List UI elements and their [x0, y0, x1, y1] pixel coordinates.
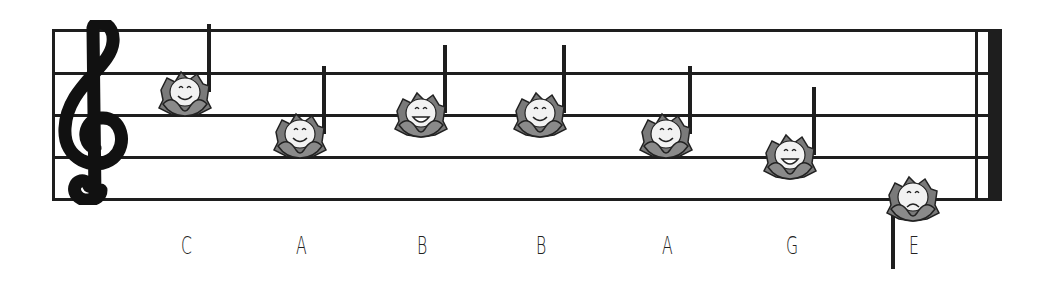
- cabbage-note-head-icon: [270, 111, 330, 161]
- note-label-a: A: [296, 232, 307, 260]
- thick-end-barline: [988, 29, 1002, 201]
- staff-line-1: [52, 29, 996, 32]
- note-label-b: B: [417, 232, 427, 260]
- cabbage-note-head-icon: [391, 90, 451, 140]
- note-label-e: E: [909, 232, 919, 260]
- treble-clef-icon: [55, 20, 135, 205]
- note-label-b: B: [536, 232, 546, 260]
- note-label-a: A: [662, 232, 673, 260]
- cabbage-note-head-icon: [883, 174, 943, 224]
- note-label-g: G: [786, 232, 798, 260]
- cabbage-note-head-icon: [760, 132, 820, 182]
- cabbage-note-head-icon: [155, 69, 215, 119]
- cabbage-note-head-icon: [636, 111, 696, 161]
- staff-line-5: [52, 198, 996, 201]
- cabbage-note-head-icon: [510, 90, 570, 140]
- note-label-c: C: [181, 232, 192, 260]
- staff-line-4: [52, 156, 996, 159]
- thin-end-barline: [975, 29, 978, 201]
